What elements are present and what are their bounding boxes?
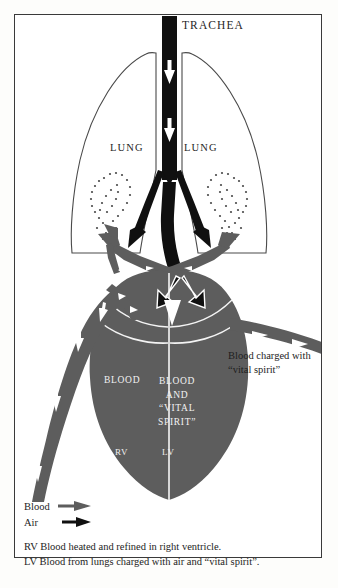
blood-arrow-icon xyxy=(58,500,92,512)
vessel-arrow-icon xyxy=(118,266,126,274)
rv-blood-label: BLOOD xyxy=(104,375,140,385)
lv-blood-label: BLOOD AND “VITAL SPIRIT” xyxy=(158,375,196,429)
legend-item-air: Air xyxy=(24,514,92,530)
page-bleed-artifact xyxy=(20,572,320,582)
anatomical-diagram: TRACHEA LUNG LUNG BLOOD BLOOD AND “VITAL… xyxy=(0,0,338,588)
vital-spirit-callout: Blood charged with “vital spirit” xyxy=(228,349,334,377)
legend-item-blood: Blood xyxy=(24,498,92,514)
figure-caption: RV Blood heated and refined in right ven… xyxy=(24,540,324,569)
legend-label-blood: Blood xyxy=(24,501,58,512)
trachea xyxy=(162,16,177,180)
caption-line-lv: LV Blood from lungs charged with air and… xyxy=(24,555,324,570)
rv-chamber-label: RV xyxy=(115,447,128,457)
lv-chamber-label: LV xyxy=(162,447,175,457)
caption-line-rv: RV Blood heated and refined in right ven… xyxy=(24,540,324,555)
legend: Blood Air xyxy=(24,498,92,530)
legend-label-air: Air xyxy=(24,517,58,528)
air-arrow-icon xyxy=(58,516,92,528)
lung-left-label: LUNG xyxy=(110,142,144,153)
lung-right-label: LUNG xyxy=(184,142,218,153)
trachea-label: TRACHEA xyxy=(182,19,244,31)
